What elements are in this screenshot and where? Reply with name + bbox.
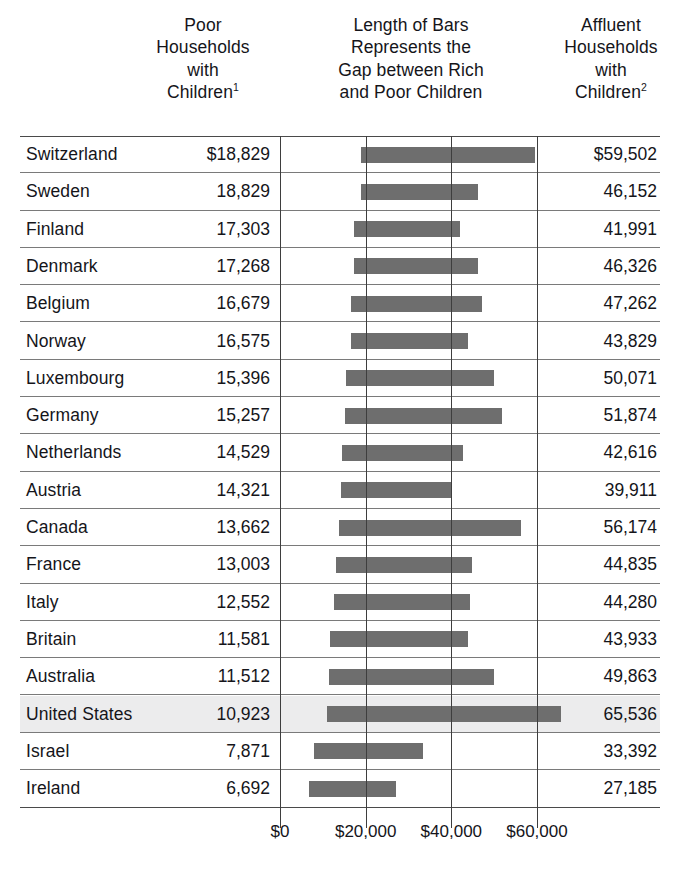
axis-tick-label: $60,000 bbox=[506, 822, 567, 842]
country-label: Luxembourg bbox=[26, 360, 124, 397]
affluent-household-value: 41,991 bbox=[542, 211, 657, 248]
column-header-poor-households: Poor Households with Children1 bbox=[125, 14, 281, 104]
table-row: Norway16,57543,829 bbox=[20, 323, 660, 360]
header-mid-line-2: Represents the bbox=[351, 37, 471, 57]
country-label: Canada bbox=[26, 509, 88, 546]
poor-household-value: 6,692 bbox=[140, 770, 270, 807]
affluent-household-value: 46,152 bbox=[542, 173, 657, 210]
country-label: Netherlands bbox=[26, 434, 121, 471]
table-bottom-rule bbox=[20, 807, 660, 808]
table-row: Austria14,32139,911 bbox=[20, 472, 660, 509]
table-row: United States10,92365,536 bbox=[20, 696, 660, 733]
table-row: Italy12,55244,280 bbox=[20, 584, 660, 621]
affluent-household-value: 49,863 bbox=[542, 658, 657, 695]
affluent-household-value: 44,835 bbox=[542, 546, 657, 583]
poor-household-value: 16,679 bbox=[140, 285, 270, 322]
header-poor-line-1: Poor bbox=[184, 15, 221, 35]
table-row: Britain11,58143,933 bbox=[20, 621, 660, 658]
table-header: Poor Households with Children1 Length of… bbox=[20, 14, 660, 129]
affluent-household-value: 65,536 bbox=[542, 696, 657, 733]
country-label: Finland bbox=[26, 211, 84, 248]
poor-household-value: 17,303 bbox=[140, 211, 270, 248]
country-label: Ireland bbox=[26, 770, 80, 807]
header-affluent-line-4: Children bbox=[575, 82, 641, 102]
affluent-household-value: $59,502 bbox=[542, 136, 657, 173]
table-row: Belgium16,67947,262 bbox=[20, 285, 660, 322]
gap-bar bbox=[354, 221, 460, 237]
table-row: Netherlands14,52942,616 bbox=[20, 434, 660, 471]
gap-between-rich-and-poor-chart: Poor Households with Children1 Length of… bbox=[0, 0, 677, 877]
affluent-household-value: 33,392 bbox=[542, 733, 657, 770]
gap-bar bbox=[345, 408, 502, 424]
country-label: Switzerland bbox=[26, 136, 118, 173]
gap-bar bbox=[327, 706, 561, 722]
header-mid-line-4: and Poor Children bbox=[340, 82, 483, 102]
affluent-household-value: 51,874 bbox=[542, 397, 657, 434]
affluent-household-value: 56,174 bbox=[542, 509, 657, 546]
header-affluent-footnote-marker: 2 bbox=[641, 81, 647, 93]
axis-tick-label: $20,000 bbox=[335, 822, 396, 842]
gap-bar bbox=[309, 781, 397, 797]
table-row: Canada13,66256,174 bbox=[20, 509, 660, 546]
poor-household-value: $18,829 bbox=[140, 136, 270, 173]
affluent-household-value: 47,262 bbox=[542, 285, 657, 322]
axis-tick-label: $40,000 bbox=[421, 822, 482, 842]
table-row: Israel7,87133,392 bbox=[20, 733, 660, 770]
table-row: Ireland6,69227,185 bbox=[20, 770, 660, 807]
affluent-household-value: 43,933 bbox=[542, 621, 657, 658]
poor-household-value: 15,257 bbox=[140, 397, 270, 434]
header-mid-line-3: Gap between Rich bbox=[338, 60, 484, 80]
gap-bar bbox=[336, 557, 472, 573]
header-affluent-line-1: Affluent bbox=[581, 15, 641, 35]
poor-household-value: 10,923 bbox=[140, 696, 270, 733]
poor-household-value: 14,321 bbox=[140, 472, 270, 509]
affluent-household-value: 44,280 bbox=[542, 584, 657, 621]
poor-household-value: 16,575 bbox=[140, 323, 270, 360]
gap-bar bbox=[361, 184, 478, 200]
affluent-household-value: 46,326 bbox=[542, 248, 657, 285]
affluent-household-value: 42,616 bbox=[542, 434, 657, 471]
table-row: France13,00344,835 bbox=[20, 546, 660, 583]
country-label: Norway bbox=[26, 323, 86, 360]
gap-bar bbox=[351, 333, 468, 349]
poor-household-value: 11,581 bbox=[140, 621, 270, 658]
country-label: United States bbox=[26, 696, 132, 733]
header-poor-footnote-marker: 1 bbox=[233, 81, 239, 93]
table-row: Switzerland$18,829$59,502 bbox=[20, 136, 660, 173]
table-row: Luxembourg15,39650,071 bbox=[20, 360, 660, 397]
gap-bar bbox=[314, 743, 423, 759]
table-row: Australia11,51249,863 bbox=[20, 658, 660, 695]
country-label: Sweden bbox=[26, 173, 90, 210]
poor-household-value: 15,396 bbox=[140, 360, 270, 397]
poor-household-value: 18,829 bbox=[140, 173, 270, 210]
gap-bar bbox=[341, 482, 451, 498]
poor-household-value: 7,871 bbox=[140, 733, 270, 770]
x-axis-tick-labels: $0$20,000$40,000$60,000 bbox=[0, 822, 677, 852]
table-row: Denmark17,26846,326 bbox=[20, 248, 660, 285]
affluent-household-value: 43,829 bbox=[542, 323, 657, 360]
affluent-household-value: 27,185 bbox=[542, 770, 657, 807]
poor-household-value: 14,529 bbox=[140, 434, 270, 471]
header-poor-line-4: Children bbox=[167, 82, 233, 102]
country-label: France bbox=[26, 546, 81, 583]
country-label: Italy bbox=[26, 584, 59, 621]
country-label: Israel bbox=[26, 733, 69, 770]
gap-bar bbox=[361, 147, 535, 163]
poor-household-value: 12,552 bbox=[140, 584, 270, 621]
gap-bar bbox=[339, 520, 521, 536]
gap-bar bbox=[346, 370, 495, 386]
poor-household-value: 13,003 bbox=[140, 546, 270, 583]
header-mid-line-1: Length of Bars bbox=[353, 15, 468, 35]
country-label: Germany bbox=[26, 397, 99, 434]
gap-bar bbox=[330, 631, 469, 647]
affluent-household-value: 39,911 bbox=[542, 472, 657, 509]
country-label: Austria bbox=[26, 472, 81, 509]
gap-bar bbox=[351, 296, 482, 312]
header-affluent-line-3: with bbox=[595, 60, 627, 80]
gap-bar bbox=[342, 445, 462, 461]
data-table: Switzerland$18,829$59,502Sweden18,82946,… bbox=[20, 136, 660, 808]
axis-tick-label: $0 bbox=[271, 822, 290, 842]
column-header-bars-caption: Length of Bars Represents the Gap betwee… bbox=[286, 14, 536, 104]
country-label: Denmark bbox=[26, 248, 98, 285]
country-label: Australia bbox=[26, 658, 95, 695]
